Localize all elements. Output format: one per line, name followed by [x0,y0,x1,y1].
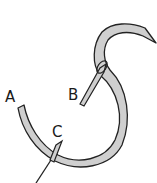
needle-b [80,59,109,106]
label-a: A [5,90,15,105]
thread-and-needle-drawing [0,0,157,183]
label-c: C [52,125,62,140]
label-b: B [68,88,78,103]
stitch-diagram: A B C [0,0,157,183]
